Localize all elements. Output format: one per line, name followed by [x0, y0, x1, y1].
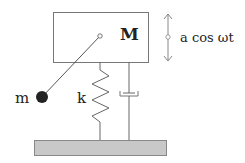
forcing-marker [166, 35, 170, 39]
spring [92, 62, 109, 140]
spring-label: k [77, 89, 87, 107]
pendulum-ball [36, 91, 48, 103]
mass-spring-pendulum-diagram: M m k a cos ωt [0, 0, 245, 163]
ground [35, 141, 167, 156]
mass-label: M [120, 24, 139, 44]
forcing-label: a cos ωt [180, 30, 234, 45]
pendulum-mass-label: m [15, 89, 29, 107]
pendulum-pivot [98, 34, 102, 38]
